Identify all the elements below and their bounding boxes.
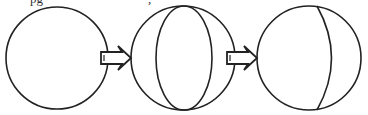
sphere-outline <box>6 7 108 109</box>
sphere-outline <box>131 6 235 110</box>
arrow-icon <box>227 46 257 70</box>
sphere-half-meridian <box>257 6 361 110</box>
sphere-transformation-diagram <box>0 0 368 115</box>
sphere-outline <box>257 6 361 110</box>
arrow-icon <box>101 46 131 70</box>
sphere-plain <box>6 7 108 109</box>
meridian-ellipse <box>156 6 212 110</box>
sphere-full-meridian <box>131 6 235 110</box>
meridian-arc <box>317 6 332 110</box>
